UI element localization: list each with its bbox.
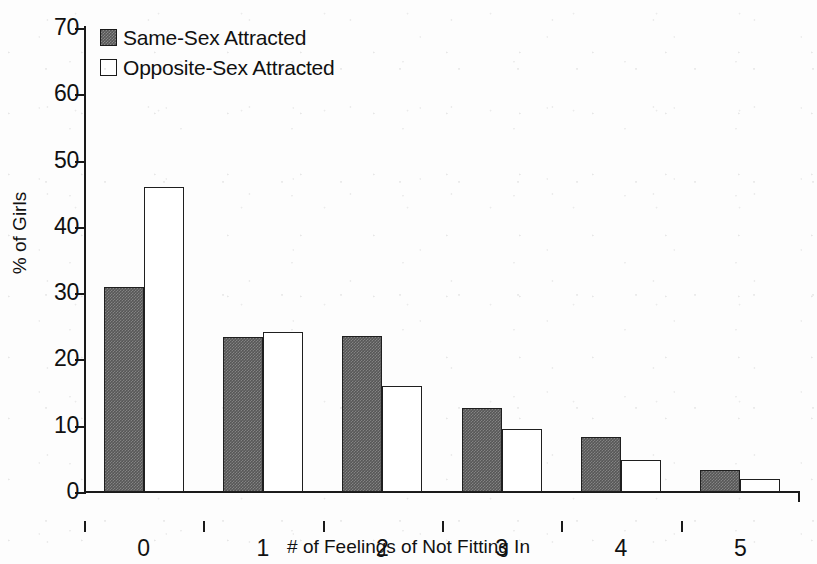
x-tick-mark	[442, 521, 444, 532]
bar-opposite-sex-3	[502, 429, 542, 492]
x-tick-mark	[323, 521, 325, 532]
x-axis-end-tick	[798, 491, 800, 502]
y-tick-label: 10	[54, 414, 79, 437]
bar-opposite-sex-4	[621, 460, 661, 492]
x-tick-mark	[681, 521, 683, 532]
bar-same-sex-1	[223, 337, 263, 492]
bar-chart: % of Girls # of Feelings of Not Fitting …	[0, 0, 817, 564]
bar-opposite-sex-1	[263, 332, 303, 492]
bar-opposite-sex-2	[382, 386, 422, 492]
x-tick-mark	[561, 521, 563, 532]
plot-area: 010203040506070 012345	[84, 28, 800, 492]
y-tick-label: 70	[54, 16, 79, 39]
x-tick-label: 1	[233, 535, 293, 561]
bar-opposite-sex-5	[740, 479, 780, 492]
x-tick-label: 2	[352, 535, 412, 561]
bar-same-sex-0	[104, 287, 144, 492]
x-tick-label: 0	[114, 535, 174, 561]
y-axis-title: % of Girls	[9, 168, 31, 298]
x-tick-mark	[203, 521, 205, 532]
y-tick-label: 60	[54, 82, 79, 105]
bar-same-sex-5	[700, 470, 740, 492]
x-tick-label: 5	[710, 535, 770, 561]
x-tick-label: 3	[472, 535, 532, 561]
y-tick-label: 0	[67, 480, 80, 503]
x-tick-mark	[84, 521, 86, 532]
bar-same-sex-3	[462, 408, 502, 492]
y-tick-label: 30	[54, 281, 79, 304]
y-tick-label: 40	[54, 215, 79, 238]
y-tick-label: 50	[54, 149, 79, 172]
bar-same-sex-2	[342, 336, 382, 492]
bar-opposite-sex-0	[144, 187, 184, 492]
y-tick-label: 20	[54, 347, 79, 370]
bar-same-sex-4	[581, 437, 621, 492]
x-tick-label: 4	[591, 535, 651, 561]
